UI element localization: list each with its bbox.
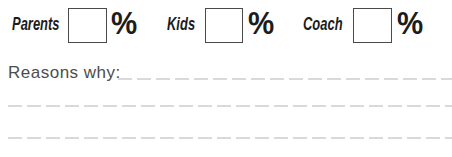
writing-line-3[interactable] [8, 137, 452, 139]
coach-label: Coach [303, 15, 343, 33]
reasons-why-label: Reasons why: [8, 63, 121, 83]
writing-line-2[interactable] [8, 105, 452, 107]
kids-label: Kids [167, 15, 195, 33]
parents-label: Parents [12, 15, 60, 33]
coach-percent-sign: % [397, 8, 423, 39]
parents-percent-input-box[interactable] [68, 8, 107, 43]
coach-percent-input-box[interactable] [353, 8, 392, 43]
kids-percent-input-box[interactable] [205, 8, 243, 43]
parents-percent-sign: % [111, 8, 137, 39]
reasons-why-writing-line[interactable] [118, 78, 452, 80]
kids-percent-sign: % [248, 8, 274, 39]
percentage-worksheet-form: Parents % Kids % Coach % Reasons why: [0, 0, 452, 157]
